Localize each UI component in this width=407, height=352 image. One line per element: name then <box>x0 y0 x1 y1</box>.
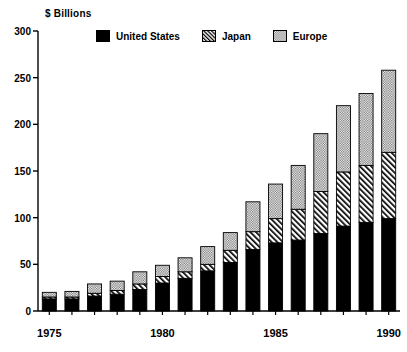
bar-segment <box>178 272 192 279</box>
bar-segment <box>314 234 328 311</box>
bar-segment <box>359 165 373 222</box>
bar-segment <box>155 265 169 276</box>
bar-segment <box>110 290 124 294</box>
bar-segment <box>88 284 102 293</box>
bar-stack <box>246 202 260 311</box>
bar-segment <box>110 281 124 290</box>
bar-segment <box>201 271 215 311</box>
bar-segment <box>42 292 56 297</box>
bar-stack <box>178 258 192 311</box>
bar-segment <box>291 240 305 311</box>
bar-segment <box>336 226 350 311</box>
bar-stack <box>88 284 102 311</box>
x-axis-tick-label: 1980 <box>150 327 174 339</box>
bar-segment <box>291 165 305 209</box>
x-axis-tick-label: 1975 <box>37 327 61 339</box>
bar-segment <box>110 294 124 311</box>
bar-segment <box>155 276 169 283</box>
bar-segment <box>269 243 283 311</box>
bar-stack <box>382 70 396 311</box>
bar-segment <box>223 233 237 251</box>
stacked-bar-chart: $ Billions United States Japan <box>0 0 407 352</box>
bar-stack <box>133 272 147 311</box>
bar-segment <box>246 202 260 232</box>
bar-segment <box>336 106 350 172</box>
bar-segment <box>223 262 237 311</box>
bar-segment <box>382 70 396 152</box>
bar-stack <box>314 134 328 311</box>
bar-segment <box>382 219 396 311</box>
bar-series-group <box>42 70 395 311</box>
bar-segment <box>382 152 396 218</box>
bar-segment <box>223 250 237 262</box>
bar-segment <box>88 296 102 311</box>
bar-segment <box>42 299 56 311</box>
bar-stack <box>336 106 350 311</box>
bar-segment <box>314 134 328 192</box>
bar-segment <box>246 232 260 250</box>
bar-stack <box>269 184 283 311</box>
bar-segment <box>269 184 283 219</box>
bar-segment <box>291 209 305 240</box>
bar-segment <box>201 247 215 265</box>
bar-segment <box>269 219 283 243</box>
bar-segment <box>246 249 260 311</box>
bar-stack <box>291 165 305 311</box>
bar-segment <box>155 283 169 311</box>
x-axis-tick-label: 1990 <box>376 327 400 339</box>
bar-segment <box>65 299 79 311</box>
bar-segment <box>359 94 373 166</box>
bar-segment <box>359 222 373 311</box>
bar-stack <box>65 291 79 311</box>
bar-stack <box>110 281 124 311</box>
x-axis-tick-label: 1985 <box>263 327 287 339</box>
bar-segment <box>133 290 147 311</box>
bar-segment <box>178 258 192 272</box>
bar-segment <box>133 272 147 284</box>
bar-segment <box>65 291 79 297</box>
bar-segment <box>336 172 350 226</box>
bar-stack <box>359 94 373 311</box>
bar-stack <box>201 247 215 311</box>
bar-segment <box>314 192 328 234</box>
bar-stack <box>223 233 237 311</box>
plot-area <box>0 0 407 352</box>
bar-segment <box>201 264 215 271</box>
bar-stack <box>42 292 56 311</box>
bar-stack <box>155 265 169 311</box>
bar-segment <box>178 278 192 311</box>
bar-segment <box>133 284 147 290</box>
